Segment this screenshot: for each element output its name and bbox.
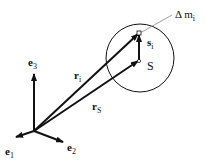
center-of-mass-point — [137, 59, 140, 62]
r-i-label: ri — [74, 69, 82, 84]
mass-element-point — [137, 31, 141, 35]
e2-axis-arrow — [34, 131, 63, 142]
r-s-label: rS — [92, 100, 101, 115]
center-of-mass-label: S — [147, 59, 154, 73]
e1-axis-arrow — [16, 131, 34, 137]
s-i-label: si — [147, 36, 154, 51]
rigid-body-diagram: e1 e2 e3 ri rS si S Δ mi — [0, 0, 205, 167]
mass-element-label: Δ mi — [175, 8, 196, 23]
r-s-vector-arrow — [34, 61, 138, 131]
r-i-vector-arrow — [34, 34, 138, 131]
e2-label: e2 — [67, 141, 76, 156]
e1-label: e1 — [5, 145, 14, 160]
e3-label: e3 — [28, 56, 37, 71]
